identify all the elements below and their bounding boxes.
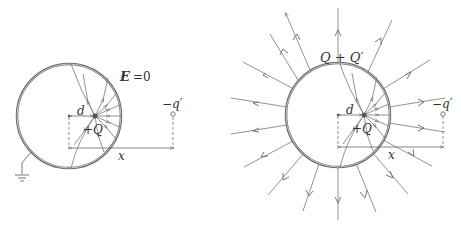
point-charge-right [362,113,367,118]
image-charge [171,112,175,116]
right-diagram: Q + Q′ d +Q x −q′ [231,8,453,220]
diagram-canvas: E =0 d +Q x −q′ [0,0,461,226]
field-eq-label: =0 [133,70,151,84]
x-label-right: x [388,148,395,162]
field-label: E [119,69,131,84]
image-charge-right [441,112,445,116]
image-charge-label-right: −q′ [432,97,453,111]
left-diagram: E =0 d +Q x −q′ [15,64,183,181]
ground-icon [15,152,31,181]
image-charge-label: −q′ [162,97,183,111]
point-charge [93,114,98,119]
d-label-right: d [346,103,354,117]
d-label: d [77,104,85,118]
charge-label: +Q [83,123,103,137]
total-charge-label: Q + Q′ [320,50,363,65]
x-label: x [118,149,125,163]
charge-label-right: +Q [352,122,372,136]
